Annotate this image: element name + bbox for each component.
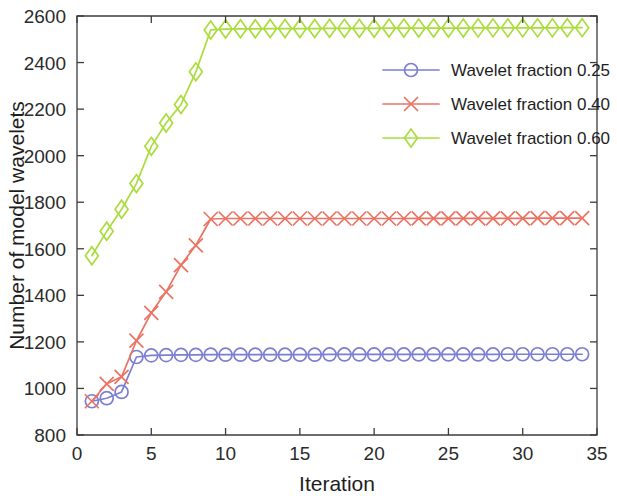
x-tick-label: 5: [146, 443, 157, 464]
x-axis-title: Iteration: [299, 472, 375, 495]
x-tick-label: 0: [72, 443, 83, 464]
chart-container: 05101520253035 8001000120014001600180020…: [0, 0, 617, 496]
x-tick-label: 10: [215, 443, 236, 464]
data-point-marker-cross: [129, 334, 143, 348]
data-point-marker-cross: [144, 306, 158, 320]
y-tick-label: 1200: [24, 332, 66, 353]
chart-legend: Wavelet fraction 0.25Wavelet fraction 0.…: [383, 61, 610, 148]
data-point-marker-cross: [159, 285, 173, 299]
legend-label: Wavelet fraction 0.60: [451, 129, 610, 148]
data-point-marker-cross: [100, 377, 114, 391]
y-tick-label: 1400: [24, 285, 66, 306]
y-tick-label: 1800: [24, 192, 66, 213]
data-point-marker-cross: [174, 258, 188, 272]
x-tick-label: 20: [364, 443, 385, 464]
data-point-marker-cross: [85, 394, 99, 408]
x-tick-label: 25: [438, 443, 459, 464]
x-axis-ticks: 05101520253035: [72, 16, 608, 464]
legend-label: Wavelet fraction 0.40: [451, 95, 610, 114]
chart-series: [85, 348, 588, 408]
data-point-marker-cross: [115, 370, 129, 384]
y-tick-label: 2200: [24, 99, 66, 120]
x-tick-label: 30: [512, 443, 533, 464]
line-chart: 05101520253035 8001000120014001600180020…: [0, 0, 617, 496]
y-tick-label: 2000: [24, 146, 66, 167]
series-line: [92, 218, 582, 401]
data-point-marker-cross: [189, 238, 203, 252]
x-tick-label: 15: [289, 443, 310, 464]
legend-entry[interactable]: Wavelet fraction 0.25: [383, 61, 610, 80]
y-axis-title: Number of model wavelets: [5, 101, 28, 350]
y-tick-label: 2400: [24, 53, 66, 74]
y-tick-label: 1000: [24, 378, 66, 399]
chart-series: [85, 211, 589, 408]
y-tick-label: 2600: [24, 6, 66, 27]
y-tick-label: 800: [34, 425, 66, 446]
x-tick-label: 35: [586, 443, 607, 464]
legend-entry[interactable]: Wavelet fraction 0.60: [383, 129, 610, 148]
legend-label: Wavelet fraction 0.25: [451, 61, 610, 80]
y-tick-label: 1600: [24, 239, 66, 260]
legend-entry[interactable]: Wavelet fraction 0.40: [383, 95, 610, 114]
